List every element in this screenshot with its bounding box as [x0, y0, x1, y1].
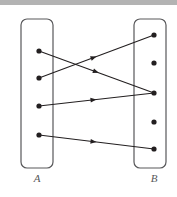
set-label-b: B: [144, 172, 164, 184]
arrowhead-icon: [90, 98, 96, 103]
diagram-canvas: [0, 0, 177, 197]
element-nodes-layer: [36, 32, 156, 151]
set-boxes-layer: [21, 19, 166, 168]
figure-screenshot: A B: [0, 0, 177, 197]
node-a1: [36, 48, 41, 53]
set-label-a: A: [27, 172, 47, 184]
arrowhead-icon: [90, 56, 96, 60]
node-b1: [151, 32, 156, 37]
relation-edges-layer: [39, 35, 154, 149]
arrowhead-icon: [92, 69, 98, 74]
bipartite-arrow-diagram: [0, 0, 177, 197]
node-b5: [151, 146, 156, 151]
node-a4: [36, 132, 41, 137]
node-b3: [151, 90, 156, 95]
arrowhead-icon: [90, 139, 96, 144]
node-b4: [151, 119, 156, 124]
set-box-a: [21, 19, 53, 168]
node-b2: [151, 60, 156, 65]
node-a3: [36, 103, 41, 108]
node-a2: [36, 75, 41, 80]
